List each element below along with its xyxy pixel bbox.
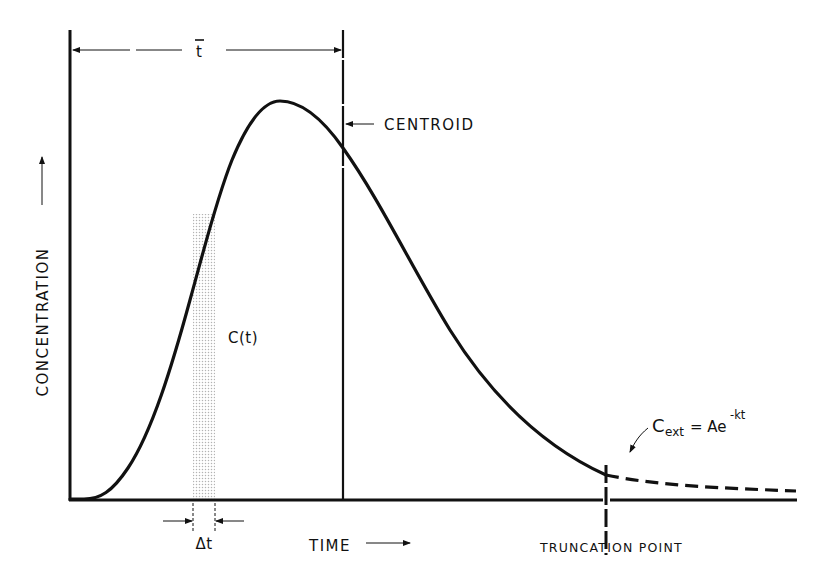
- x-axis-label: TIME: [308, 537, 351, 555]
- c-of-t-label: C(t): [228, 329, 258, 347]
- cext-pointer-arrow: [630, 428, 648, 452]
- cext-c: C: [652, 415, 665, 436]
- concentration-time-diagram: t CENTROID C(t) Δt TIME CONCENTRATION TR…: [0, 0, 826, 577]
- centroid-label: CENTROID: [384, 116, 475, 134]
- extrapolated-tail-curve: [606, 475, 796, 491]
- y-axis-label: CONCENTRATION: [34, 248, 52, 397]
- concentration-curve: [70, 101, 606, 499]
- cext-subscript: ext: [665, 425, 684, 439]
- t-bar-label: t: [196, 43, 202, 61]
- cext-superscript: -kt: [730, 408, 746, 422]
- truncation-point-label: TRUNCATION POINT: [539, 540, 683, 555]
- delta-t-label: Δt: [195, 535, 212, 553]
- delta-t-shaded-strip: [193, 214, 215, 500]
- cext-equals-ae: = Ae: [690, 418, 727, 436]
- cext-equation: C ext = Ae -kt: [652, 408, 746, 439]
